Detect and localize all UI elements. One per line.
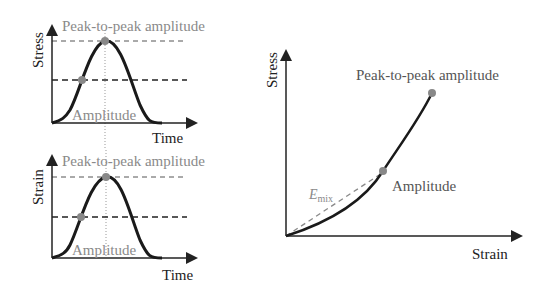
modulus-label: Emix <box>308 187 333 204</box>
secant-modulus-line <box>286 175 379 236</box>
amplitude-marker <box>379 167 387 175</box>
amplitude-label: Amplitude <box>392 178 457 194</box>
peak-marker <box>102 173 110 181</box>
amplitude-label: Amplitude <box>72 107 137 123</box>
peak-label: Peak-to-peak amplitude <box>356 67 499 83</box>
peak-marker <box>101 37 109 45</box>
stress-time-panel: Peak-to-peak amplitude Amplitude Time St… <box>30 18 205 148</box>
x-axis-label: Strain <box>472 246 508 262</box>
y-axis-label: Stress <box>30 32 46 68</box>
amplitude-label: Amplitude <box>72 242 137 258</box>
amplitude-marker <box>77 213 85 221</box>
y-axis-label: Strain <box>30 169 46 205</box>
amplitude-marker <box>78 76 86 84</box>
x-axis-label: Time <box>162 267 193 283</box>
x-axis-label: Time <box>152 130 183 146</box>
diagram: Peak-to-peak amplitude Amplitude Time St… <box>0 0 541 298</box>
y-axis-label: Stress <box>264 52 280 88</box>
peak-marker <box>428 89 436 97</box>
peak-label: Peak-to-peak amplitude <box>62 153 205 169</box>
stress-strain-panel: Peak-to-peak amplitude Amplitude Emix St… <box>264 52 520 262</box>
stress-strain-curve <box>286 93 432 236</box>
strain-time-panel: Peak-to-peak amplitude Amplitude Time St… <box>30 150 205 283</box>
peak-label: Peak-to-peak amplitude <box>62 18 205 34</box>
